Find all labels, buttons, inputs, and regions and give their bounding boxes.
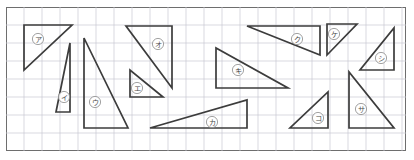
triangle-a-outline — [24, 25, 72, 70]
triangle-i: イ — [56, 43, 70, 112]
triangle-i-label-text: イ — [61, 93, 68, 102]
triangle-sa: サ — [349, 72, 394, 128]
triangle-ka-label-text: カ — [209, 118, 216, 127]
triangle-ki-outline — [216, 48, 288, 88]
triangle-shi: シ — [360, 28, 394, 70]
triangle-sa-outline — [349, 72, 394, 128]
triangle-u: ウ — [84, 38, 128, 128]
triangle-ka-outline — [150, 100, 247, 128]
worksheet-canvas: アイウエオカキクケコサシ — [0, 0, 414, 160]
triangle-shi-label-text: シ — [378, 54, 385, 63]
triangle-a: ア — [24, 25, 72, 70]
triangle-ku-label-text: ク — [294, 35, 301, 44]
triangle-ki-label-text: キ — [235, 66, 242, 75]
triangle-ku-outline — [247, 26, 320, 55]
triangle-o: オ — [126, 26, 172, 88]
triangle-e-label-text: エ — [134, 84, 141, 93]
triangle-ke: ケ — [327, 24, 357, 55]
triangle-shape-layer: アイウエオカキクケコサシ — [0, 0, 414, 160]
triangle-shi-outline — [360, 28, 394, 70]
triangle-ko: コ — [290, 92, 328, 128]
triangle-u-outline — [84, 38, 128, 128]
triangle-a-label-text: ア — [35, 35, 42, 44]
triangle-ko-label-text: コ — [315, 114, 322, 123]
triangle-ku: ク — [247, 26, 320, 55]
triangle-o-label-text: オ — [155, 40, 162, 49]
triangle-ke-label-text: ケ — [331, 30, 338, 39]
triangle-u-label-text: ウ — [92, 98, 99, 107]
triangle-o-outline — [126, 26, 172, 88]
triangle-ki: キ — [216, 48, 288, 88]
triangle-e: エ — [130, 70, 163, 97]
triangle-sa-label-text: サ — [358, 105, 365, 114]
triangle-ka: カ — [150, 100, 247, 128]
triangle-ko-outline — [290, 92, 328, 128]
